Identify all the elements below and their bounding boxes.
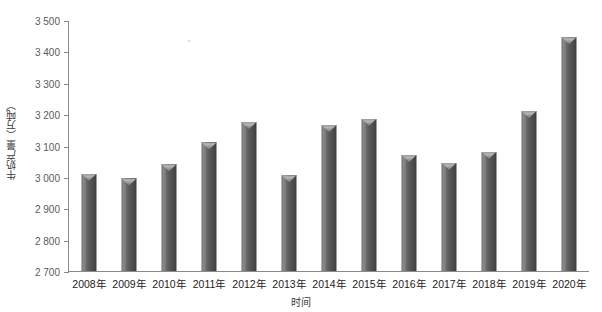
bar-2015年[interactable] [362,119,377,271]
y-axis-tick-label: 2 900 [35,204,60,215]
bar-cap [402,155,417,162]
bar-slot [309,21,349,271]
x-axis-label-2011年: 2011年 [193,276,226,291]
bar-cap [482,152,497,159]
y-axis-tick-label: 2 700 [35,267,60,278]
bar-slot [429,21,469,271]
bar-cap [82,174,97,181]
bar-2011年[interactable] [202,142,217,271]
y-axis-tick-label: 3 200 [35,110,60,121]
bar-slot [349,21,389,271]
bar-2016年[interactable] [402,155,417,271]
bar-cap [442,163,457,170]
x-axis-label-2017年: 2017年 [432,276,465,291]
bar-slot [509,21,549,271]
x-axis-label-2012年: 2012年 [232,276,265,291]
x-axis-label-2009年: 2009年 [112,276,145,291]
y-axis-tick-label: 3 400 [35,47,60,58]
bar-2009年[interactable] [122,178,137,271]
bars-layer [69,21,589,271]
bar-slot [189,21,229,271]
y-axis-tick-label: 3 100 [35,141,60,152]
x-axis-label-2018年: 2018年 [472,276,505,291]
bar-slot [149,21,189,271]
x-axis-labels-group: 2008年2009年2010年2011年2012年2013年2014年2015年… [68,276,589,292]
x-axis-label-2013年: 2013年 [272,276,305,291]
y-axis-tick-label: 3 500 [35,16,60,27]
bar-2013年[interactable] [282,175,297,271]
bar-cap [122,178,137,185]
x-axis-title: 时间 [0,294,602,309]
bar-cap [322,125,337,132]
bar-slot [69,21,109,271]
bar-slot [389,21,429,271]
y-axis-tick-label: 2 800 [35,235,60,246]
bar-cap [562,37,577,44]
bar-cap [162,164,177,171]
bar-2012年[interactable] [242,122,257,271]
bar-2018年[interactable] [482,152,497,271]
bar-2020年[interactable] [562,37,577,271]
bar-cap [282,175,297,182]
bar-2019年[interactable] [522,111,537,271]
x-axis-label-2015年: 2015年 [352,276,385,291]
bar-slot [469,21,509,271]
plot-area: 2 7002 8002 9003 0003 1003 2003 3003 400… [68,21,589,272]
bar-cap [362,119,377,126]
y-axis-tick [64,272,69,273]
y-axis-title-text: 牛奶产量（万吨） [7,100,17,180]
bar-2010年[interactable] [162,164,177,271]
y-axis-title: 牛奶产量（万吨） [2,0,22,280]
x-axis-label-2016年: 2016年 [392,276,425,291]
bar-2017年[interactable] [442,163,457,271]
milk-production-bar-chart: 牛奶产量（万吨） 2 7002 8002 9003 0003 1003 2003… [0,0,602,312]
bar-cap [522,111,537,118]
bar-slot [269,21,309,271]
bar-2014年[interactable] [322,125,337,271]
x-axis-label-2010年: 2010年 [152,276,185,291]
bar-cap [242,122,257,129]
x-axis-label-2014年: 2014年 [312,276,345,291]
x-axis-title-text: 时间 [291,297,311,308]
x-axis-label-2019年: 2019年 [512,276,545,291]
x-axis-line [68,271,589,272]
bar-slot [229,21,269,271]
y-axis-tick-label: 3 300 [35,78,60,89]
bar-slot [549,21,589,271]
y-axis-tick-label: 3 000 [35,172,60,183]
bar-cap [202,142,217,149]
bar-slot [109,21,149,271]
x-axis-label-2008年: 2008年 [72,276,105,291]
bar-2008年[interactable] [82,174,97,271]
x-axis-label-2020年: 2020年 [552,276,585,291]
